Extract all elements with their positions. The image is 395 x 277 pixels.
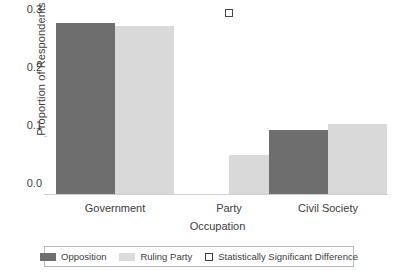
bar-group-government: [56, 8, 174, 194]
x-tick-label-party: Party: [216, 202, 242, 214]
legend: Opposition Ruling Party Statistically Si…: [44, 246, 354, 267]
bar-civil-society-ruling-party[interactable]: [328, 124, 387, 194]
x-tick-label-government: Government: [85, 202, 146, 214]
filled-dark-square-icon: [40, 253, 56, 261]
y-tick-mark: [44, 20, 47, 21]
bar-chart: Proportion of Respondents 0.0 0.1 0.2 0.…: [0, 0, 395, 277]
y-axis-title: Proportion of Respondents: [35, 0, 47, 164]
legend-label-opposition: Opposition: [61, 251, 106, 262]
y-tick-mark: [44, 194, 47, 195]
legend-item-ruling-party[interactable]: Ruling Party: [119, 251, 192, 262]
y-tick-mark: [44, 78, 47, 79]
y-tick-mark: [44, 136, 47, 137]
bars-row: [56, 8, 174, 194]
legend-item-opposition[interactable]: Opposition: [40, 251, 106, 262]
significance-marker-party: [225, 9, 233, 17]
plot-area: 0.0 0.1 0.2 0.3: [47, 8, 388, 195]
legend-item-significant-difference[interactable]: Statistically Significant Difference: [205, 251, 358, 262]
x-axis-line: [47, 194, 388, 195]
bar-group-civil-society: [269, 8, 387, 194]
x-axis-title: Occupation: [47, 220, 388, 232]
bars-row: [269, 8, 387, 194]
y-tick-label-2: 0.2: [27, 61, 42, 73]
bar-government-ruling-party[interactable]: [115, 26, 174, 194]
filled-light-square-icon: [119, 253, 135, 261]
y-tick-label-0: 0.0: [27, 177, 42, 189]
legend-label-ruling-party: Ruling Party: [140, 251, 192, 262]
x-tick-label-civil-society: Civil Society: [298, 202, 358, 214]
y-tick-label-3: 0.3: [27, 3, 42, 15]
bar-government-opposition[interactable]: [56, 23, 115, 194]
open-square-icon: [205, 253, 213, 261]
legend-label-significant-difference: Statistically Significant Difference: [218, 251, 358, 262]
bar-civil-society-opposition[interactable]: [269, 130, 328, 194]
y-tick-label-1: 0.1: [27, 119, 42, 131]
